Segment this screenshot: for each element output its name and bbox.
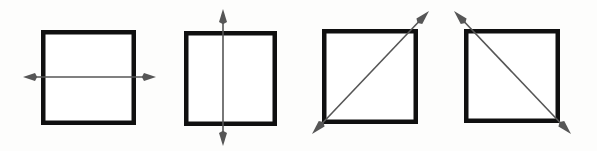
- figure-canvas: [0, 0, 597, 151]
- square-outline-4: [466, 31, 558, 121]
- square-outline-3: [324, 31, 416, 122]
- panel-4-square-with-falling-diagonal-symmetry-line: [454, 11, 571, 134]
- panel-3-square-with-rising-diagonal-symmetry-line: [312, 11, 429, 134]
- symmetry-figure-sheet: [0, 0, 597, 151]
- square-outline-2: [186, 33, 275, 124]
